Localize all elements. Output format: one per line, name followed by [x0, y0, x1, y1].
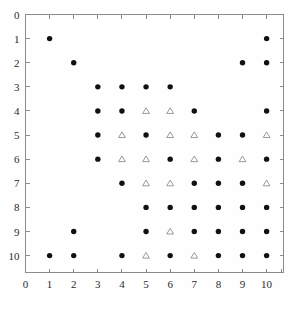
- marker-circle-4-4: [119, 108, 124, 113]
- x-axis-tick-labels: 012345678910: [23, 278, 273, 290]
- y-axis-label-2: 2: [14, 57, 20, 69]
- marker-triangle-5-7: [143, 180, 150, 186]
- marker-circle-7-4: [192, 108, 197, 113]
- y-axis-label-0: 0: [14, 9, 20, 21]
- marker-circle-4-3: [119, 84, 124, 89]
- marker-triangle-4-6: [119, 156, 126, 162]
- marker-circle-3-3: [95, 84, 100, 89]
- marker-triangle-5-4: [143, 108, 150, 114]
- marker-circle-8-9: [216, 229, 221, 234]
- y-axis-label-5: 5: [14, 129, 20, 141]
- marker-circle-10-1: [264, 36, 269, 41]
- marker-circle-10-2: [264, 60, 269, 65]
- marker-circle-6-8: [167, 205, 172, 210]
- marker-circle-2-9: [71, 229, 76, 234]
- x-axis-label-7: 7: [192, 278, 198, 290]
- marker-circle-7-8: [192, 205, 197, 210]
- marker-circle-6-6: [167, 156, 172, 161]
- marker-circle-9-10: [240, 253, 245, 258]
- y-axis-tick-labels: 012345678910: [9, 9, 21, 262]
- marker-circle-9-9: [240, 229, 245, 234]
- marker-triangle-5-6: [143, 156, 150, 162]
- marker-circle-5-9: [143, 229, 148, 234]
- marker-triangle-7-5: [191, 132, 198, 138]
- x-axis-label-1: 1: [47, 278, 53, 290]
- x-axis-label-3: 3: [95, 278, 101, 290]
- marker-circle-10-10: [264, 253, 269, 258]
- marker-circle-7-9: [192, 229, 197, 234]
- marker-triangle-7-6: [191, 156, 198, 162]
- marker-circle-6-3: [167, 84, 172, 89]
- marker-circle-8-5: [216, 132, 221, 137]
- x-axis-label-4: 4: [119, 278, 125, 290]
- x-axis-label-2: 2: [71, 278, 77, 290]
- scatter-plot-figure: 012345678910 012345678910: [0, 0, 296, 310]
- marker-circle-9-2: [240, 60, 245, 65]
- marker-triangle-5-10: [143, 252, 150, 258]
- marker-circle-6-10: [167, 253, 172, 258]
- marker-circle-7-7: [192, 181, 197, 186]
- marker-circle-9-8: [240, 205, 245, 210]
- marker-circle-10-6: [264, 156, 269, 161]
- x-axis-label-9: 9: [240, 278, 246, 290]
- marker-triangle-9-6: [239, 156, 246, 162]
- y-axis-label-6: 6: [14, 153, 20, 165]
- marker-circle-3-6: [95, 156, 100, 161]
- marker-triangle-6-9: [167, 228, 174, 234]
- x-axis-label-10: 10: [261, 278, 273, 290]
- marker-triangle-7-10: [191, 252, 198, 258]
- marker-circle-3-4: [95, 108, 100, 113]
- marker-circle-8-6: [216, 156, 221, 161]
- marker-triangle-4-5: [119, 132, 126, 138]
- series-filled-circle-markers: [47, 36, 269, 258]
- x-axis-label-8: 8: [216, 278, 222, 290]
- plot-frame: [26, 15, 284, 273]
- marker-triangle-6-5: [167, 132, 174, 138]
- marker-circle-10-4: [264, 108, 269, 113]
- marker-circle-8-7: [216, 181, 221, 186]
- marker-circle-2-10: [71, 253, 76, 258]
- marker-triangle-10-5: [263, 132, 270, 138]
- marker-circle-1-10: [47, 253, 52, 258]
- x-axis-label-6: 6: [167, 278, 173, 290]
- marker-triangle-6-4: [167, 108, 174, 114]
- marker-triangle-6-7: [167, 180, 174, 186]
- marker-circle-4-10: [119, 253, 124, 258]
- marker-circle-8-8: [216, 205, 221, 210]
- marker-triangle-10-7: [263, 180, 270, 186]
- y-axis-label-7: 7: [14, 177, 20, 189]
- plot-canvas: 012345678910 012345678910: [0, 0, 296, 310]
- plot-axes: [26, 15, 284, 273]
- marker-circle-5-3: [143, 84, 148, 89]
- marker-circle-5-8: [143, 205, 148, 210]
- marker-circle-1-1: [47, 36, 52, 41]
- marker-circle-8-10: [216, 253, 221, 258]
- marker-circle-10-8: [264, 205, 269, 210]
- y-axis-label-3: 3: [14, 81, 20, 93]
- marker-circle-5-5: [143, 132, 148, 137]
- y-axis-label-8: 8: [14, 201, 20, 213]
- y-axis-label-10: 10: [9, 250, 21, 262]
- marker-circle-4-7: [119, 181, 124, 186]
- marker-circle-10-9: [264, 229, 269, 234]
- y-axis-label-9: 9: [14, 226, 20, 238]
- y-axis-label-4: 4: [14, 105, 20, 117]
- marker-circle-9-7: [240, 181, 245, 186]
- marker-circle-9-5: [240, 132, 245, 137]
- x-axis-label-5: 5: [143, 278, 149, 290]
- x-axis-label-0: 0: [23, 278, 29, 290]
- marker-circle-3-5: [95, 132, 100, 137]
- y-axis-label-1: 1: [14, 33, 20, 45]
- marker-circle-2-2: [71, 60, 76, 65]
